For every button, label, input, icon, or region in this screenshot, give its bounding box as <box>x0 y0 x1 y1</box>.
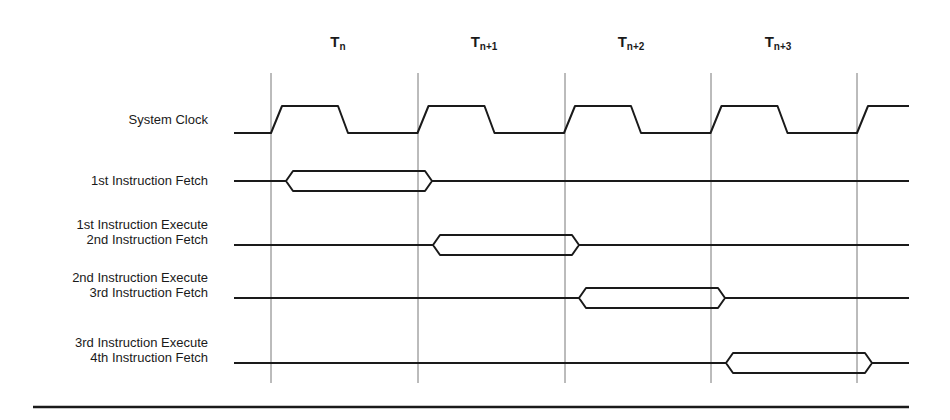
signal-label-exec1: 1st Instruction Execute2nd Instruction F… <box>76 217 208 247</box>
signal-label-line: 3rd Instruction Fetch <box>72 285 208 300</box>
signal-label-exec3: 3rd Instruction Execute4th Instruction F… <box>75 335 208 365</box>
bus-waveform-fetch1 <box>234 171 909 191</box>
period-label-subscript: n <box>340 41 346 52</box>
bus-waveform-exec3 <box>234 353 909 373</box>
signal-label-line: System Clock <box>129 112 208 127</box>
period-label: Tn+1 <box>471 33 498 52</box>
system-clock-waveform <box>234 106 909 133</box>
period-label-base: T <box>618 33 627 50</box>
period-label: Tn <box>330 33 345 52</box>
period-label-subscript: n+3 <box>774 41 792 52</box>
signal-label-line: 2nd Instruction Execute <box>72 270 208 285</box>
bus-waveform-exec1 <box>234 235 909 255</box>
signal-label-exec2: 2nd Instruction Execute3rd Instruction F… <box>72 270 208 300</box>
period-label: Tn+3 <box>765 33 792 52</box>
signal-label-fetch1: 1st Instruction Fetch <box>91 173 208 188</box>
signal-label-line: 1st Instruction Fetch <box>91 173 208 188</box>
waveforms <box>234 106 909 373</box>
period-gridlines <box>271 73 857 383</box>
period-label-base: T <box>330 33 339 50</box>
signal-label-line: 2nd Instruction Fetch <box>76 232 208 247</box>
period-label-base: T <box>765 33 774 50</box>
period-label-subscript: n+1 <box>480 41 498 52</box>
period-label-subscript: n+2 <box>627 41 645 52</box>
signal-label-line: 1st Instruction Execute <box>76 217 208 232</box>
period-label: Tn+2 <box>618 33 645 52</box>
signal-label-line: 3rd Instruction Execute <box>75 335 208 350</box>
signal-label-clock: System Clock <box>129 112 208 127</box>
period-label-base: T <box>471 33 480 50</box>
bus-waveform-exec2 <box>234 288 909 308</box>
signal-label-line: 4th Instruction Fetch <box>75 350 208 365</box>
